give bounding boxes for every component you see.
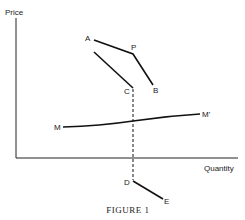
label-P: P bbox=[131, 43, 136, 52]
curve-MM-prime bbox=[63, 114, 200, 127]
x-axis-label: Quantity bbox=[204, 164, 234, 173]
label-B: B bbox=[153, 86, 158, 95]
curve-DE bbox=[133, 181, 163, 199]
label-C: C bbox=[124, 87, 130, 96]
label-M: M bbox=[54, 123, 61, 132]
figure-diagram: Price Quantity A P B C M M' D E FIGURE 1 bbox=[0, 0, 245, 220]
label-M-prime: M' bbox=[202, 110, 211, 119]
label-E: E bbox=[164, 197, 169, 206]
label-D: D bbox=[124, 178, 130, 187]
figure-caption: FIGURE 1 bbox=[106, 205, 149, 215]
y-axis-label: Price bbox=[5, 8, 24, 17]
curve-to-C bbox=[94, 52, 133, 88]
label-A: A bbox=[85, 34, 91, 43]
